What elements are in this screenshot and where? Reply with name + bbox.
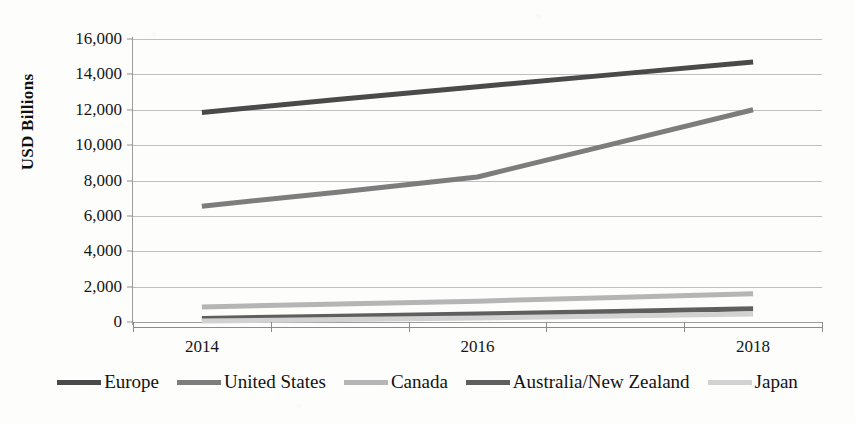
y-tick-label: 8,000 xyxy=(84,170,122,190)
x-tick-mark xyxy=(409,322,410,332)
x-tick-mark xyxy=(822,322,823,332)
series-lines xyxy=(133,39,822,322)
legend-item[interactable]: Canada xyxy=(344,371,448,393)
y-tick-label: 4,000 xyxy=(84,241,122,261)
series-line xyxy=(202,294,753,307)
x-tick-mark xyxy=(546,322,547,332)
y-tick-label: 14,000 xyxy=(75,64,122,84)
y-tick-label: 12,000 xyxy=(75,99,122,119)
legend-swatch-icon xyxy=(57,380,101,385)
line-chart: USD Billions 16,00014,00012,00010,0008,0… xyxy=(0,0,855,423)
legend-label: Canada xyxy=(391,371,448,393)
x-tick-label: 2016 xyxy=(461,337,495,357)
plot-area: 16,00014,00012,00010,0008,0006,0004,0002… xyxy=(133,39,822,322)
y-tick-label: 16,000 xyxy=(75,29,122,49)
legend-label: Australia/New Zealand xyxy=(513,371,690,393)
legend-item[interactable]: Europe xyxy=(57,371,159,393)
legend-swatch-icon xyxy=(344,380,388,385)
legend-label: Europe xyxy=(104,371,159,393)
legend-item[interactable]: United States xyxy=(177,371,326,393)
y-tick-label: 0 xyxy=(114,312,123,332)
x-tick-mark xyxy=(133,322,134,332)
x-tick-mark xyxy=(271,322,272,332)
y-tick-label: 2,000 xyxy=(84,276,122,296)
legend-swatch-icon xyxy=(466,380,510,385)
legend-label: Japan xyxy=(755,371,798,393)
y-tick-label: 10,000 xyxy=(75,135,122,155)
legend-item[interactable]: Japan xyxy=(708,371,798,393)
chart-legend: EuropeUnited StatesCanadaAustralia/New Z… xyxy=(0,371,855,393)
legend-swatch-icon xyxy=(177,380,221,385)
x-axis-line xyxy=(133,327,823,328)
legend-label: United States xyxy=(224,371,326,393)
y-axis-title: USD Billions xyxy=(18,42,38,202)
x-tick-label: 2018 xyxy=(736,337,770,357)
legend-swatch-icon xyxy=(708,380,752,385)
legend-item[interactable]: Australia/New Zealand xyxy=(466,371,690,393)
x-tick-label: 2014 xyxy=(185,337,219,357)
series-line xyxy=(202,110,753,206)
x-tick-mark xyxy=(684,322,685,332)
y-tick-label: 6,000 xyxy=(84,205,122,225)
series-line xyxy=(202,62,753,112)
